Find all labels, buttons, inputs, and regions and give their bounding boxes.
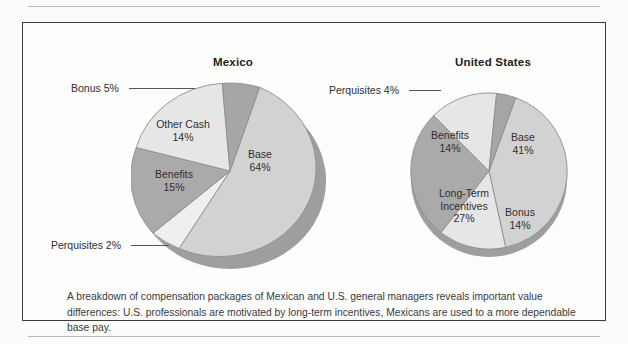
callout-mexico-bonus-text: Bonus 5% bbox=[71, 82, 119, 94]
callout-mexico-perquisites-text: Perquisites 2% bbox=[51, 239, 121, 251]
chart-title-mexico: Mexico bbox=[213, 56, 253, 68]
figure-frame: Mexico bbox=[22, 22, 606, 321]
callout-us-perquisites-text: Perquisites 4% bbox=[329, 84, 399, 96]
pie-chart-united-states bbox=[409, 85, 571, 261]
pie-us-slices bbox=[411, 93, 567, 249]
figure-canvas: Mexico bbox=[0, 0, 628, 344]
figure-caption: A breakdown of compensation packages of … bbox=[67, 289, 595, 336]
bottom-divider-rule bbox=[28, 336, 600, 337]
callout-us-perquisites: Perquisites 4% bbox=[329, 83, 441, 96]
pie-mexico-slices bbox=[131, 83, 316, 257]
callout-mexico-perquisites: Perquisites 2% bbox=[51, 238, 169, 251]
leader-line-mexico-bonus bbox=[129, 88, 195, 89]
callout-mexico-bonus: Bonus 5% bbox=[71, 81, 195, 94]
leader-line-us-perquisites bbox=[409, 90, 441, 91]
leader-line-mexico-perquisites bbox=[131, 245, 169, 246]
chart-title-united-states: United States bbox=[455, 56, 531, 68]
top-divider-rule bbox=[28, 6, 600, 7]
